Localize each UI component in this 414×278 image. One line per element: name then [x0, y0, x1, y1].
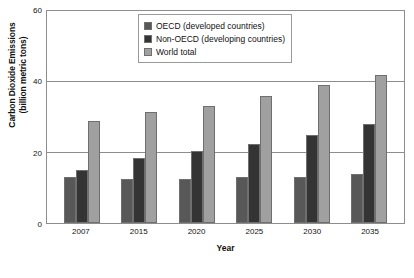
- bar-2015-series-2: [145, 112, 157, 223]
- x-tick-label-2015: 2015: [119, 227, 159, 239]
- bar-2035-series-1: [363, 124, 375, 223]
- x-tick-label-2025: 2025: [234, 227, 274, 239]
- y-tick-label-40: 40: [16, 77, 42, 86]
- bar-2007-series-0: [64, 177, 76, 223]
- y-tick-label-60: 60: [16, 6, 42, 15]
- bar-2020-series-1: [191, 151, 203, 223]
- legend-item-non-oecd: Non-OECD (developing countries): [144, 32, 285, 45]
- bar-2020-series-0: [179, 179, 191, 223]
- bar-2015-series-0: [121, 179, 133, 223]
- x-tick-label-2030: 2030: [292, 227, 332, 239]
- y-tick-label-0: 0: [16, 220, 42, 229]
- bar-2035-series-0: [351, 174, 363, 223]
- bar-group-2007: [64, 11, 100, 223]
- bar-2030-series-0: [294, 177, 306, 223]
- x-axis-title: Year: [46, 243, 405, 253]
- legend-label-oecd: OECD (developed countries): [156, 21, 265, 31]
- bar-2025-series-1: [248, 144, 260, 224]
- legend-swatch-non-oecd-icon: [144, 35, 152, 43]
- y-tick-label-20: 20: [16, 149, 42, 158]
- bar-group-2035: [351, 11, 387, 223]
- x-tick-label-2020: 2020: [177, 227, 217, 239]
- x-tick-label-2035: 2035: [350, 227, 390, 239]
- legend-label-world-total: World total: [156, 47, 196, 57]
- bar-2007-series-1: [76, 170, 88, 223]
- bar-2030-series-1: [306, 135, 318, 223]
- bar-2030-series-2: [318, 85, 330, 223]
- chart-legend: OECD (developed countries) Non-OECD (dev…: [138, 14, 292, 63]
- bar-2025-series-0: [236, 177, 248, 223]
- bar-2007-series-2: [88, 121, 100, 223]
- x-axis-tick-labels: 200720152020202520302035: [46, 227, 405, 239]
- bar-2035-series-2: [375, 75, 387, 223]
- bar-2025-series-2: [260, 96, 272, 223]
- bar-group-2030: [294, 11, 330, 223]
- co2-emissions-bar-chart: Carbon Dioxide Emissions (billion metric…: [0, 0, 414, 278]
- legend-label-non-oecd: Non-OECD (developing countries): [156, 34, 285, 44]
- bar-2015-series-1: [133, 158, 145, 223]
- legend-swatch-oecd-icon: [144, 22, 152, 30]
- x-tick-label-2007: 2007: [61, 227, 101, 239]
- legend-swatch-world-total-icon: [144, 48, 152, 56]
- legend-item-world-total: World total: [144, 45, 285, 58]
- legend-item-oecd: OECD (developed countries): [144, 19, 285, 32]
- bar-2020-series-2: [203, 106, 215, 223]
